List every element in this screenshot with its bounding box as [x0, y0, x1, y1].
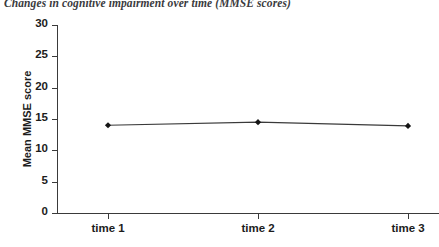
data-point-marker	[405, 123, 411, 129]
data-point-marker	[255, 119, 261, 125]
line-chart-plot: Mean MMSE score 051015202530 time 1time …	[0, 0, 439, 247]
data-point-marker	[105, 122, 111, 128]
data-series-layer	[0, 0, 439, 247]
